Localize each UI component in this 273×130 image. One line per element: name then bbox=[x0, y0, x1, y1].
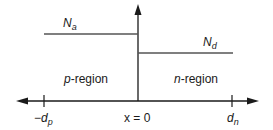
p-region-label: p-region bbox=[64, 72, 108, 86]
pn-junction-diagram: Na Nd p-region n-region −dp x = 0 dn bbox=[0, 0, 273, 130]
tick-label-minus-dp: −dp bbox=[34, 111, 53, 126]
acceptor-label: Na bbox=[63, 16, 77, 31]
p-region-rest: -region bbox=[71, 72, 108, 86]
p-region-letter: p bbox=[64, 72, 71, 86]
n-region-letter: n bbox=[174, 72, 181, 86]
left-arrowhead-icon bbox=[16, 98, 28, 105]
donor-label-sub: d bbox=[212, 41, 217, 51]
acceptor-label-main: N bbox=[63, 16, 72, 30]
tick-label-dn: dn bbox=[227, 111, 239, 126]
n-region-rest: -region bbox=[181, 72, 218, 86]
tick-label-origin: x = 0 bbox=[124, 111, 150, 125]
tick-label-dn-sub: n bbox=[234, 117, 239, 127]
donor-label-main: N bbox=[203, 35, 212, 49]
vertical-arrowhead-icon bbox=[135, 4, 142, 15]
donor-label: Nd bbox=[203, 35, 217, 50]
acceptor-label-sub: a bbox=[72, 22, 77, 32]
right-arrowhead-icon bbox=[247, 98, 259, 105]
tick-label-minus-sign: − bbox=[34, 111, 41, 125]
tick-label-dp-sub: p bbox=[48, 117, 53, 127]
tick-label-origin-text: x = 0 bbox=[124, 111, 150, 125]
n-region-label: n-region bbox=[174, 72, 218, 86]
tick-label-dp-main: d bbox=[41, 111, 48, 125]
tick-label-dn-main: d bbox=[227, 111, 234, 125]
